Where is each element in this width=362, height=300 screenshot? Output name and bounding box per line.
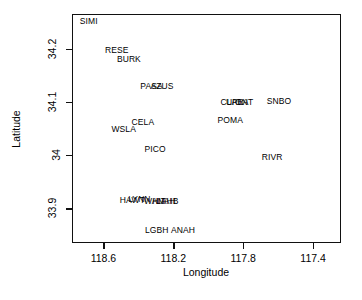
plot-frame: SIMIRESEBURKPASAAZUSCLARUPLAONTSNBOPOMAC…	[72, 14, 341, 243]
x-axis-tick-label: 118.2	[161, 252, 187, 264]
data-point-label: ONT	[235, 97, 253, 107]
data-point-label: POMA	[217, 115, 242, 125]
data-point-label: LGBH	[145, 225, 169, 235]
data-point-label: WSLA	[111, 124, 136, 134]
x-axis-tick	[313, 243, 314, 249]
y-axis-title: Latitude	[10, 110, 22, 147]
y-axis-tick-label: 34.1	[42, 96, 62, 108]
y-axis-tick	[66, 208, 72, 209]
data-point-label: RIVR	[262, 152, 283, 162]
data-point-label: LAHB	[156, 196, 179, 206]
data-point-label: PICO	[145, 144, 166, 154]
x-axis-tick-label: 117.8	[230, 252, 256, 264]
y-axis-tick	[66, 102, 72, 103]
y-axis-tick-label: 33.9	[42, 202, 62, 214]
x-axis-tick-label: 118.6	[91, 252, 117, 264]
y-axis-tick	[66, 49, 72, 50]
x-axis-tick	[173, 243, 174, 249]
data-point-label: SNBO	[267, 96, 292, 106]
y-axis-tick-label: 34	[50, 149, 62, 161]
x-axis-tick-label: 117.4	[300, 252, 326, 264]
x-axis-title: Longitude	[183, 266, 229, 278]
plot-area: SIMIRESEBURKPASAAZUSCLARUPLAONTSNBOPOMAC…	[73, 15, 340, 242]
y-axis-tick-label: 34.2	[42, 43, 62, 55]
y-axis-tick-label-text: 33.9	[46, 198, 58, 218]
y-axis-tick-label-text: 34.1	[46, 92, 58, 112]
data-point-label: BURK	[117, 54, 141, 64]
data-point-label: AZUS	[151, 81, 174, 91]
data-point-label: ANAH	[171, 225, 195, 235]
y-axis-tick	[66, 155, 72, 156]
scatter-plot-figure: SIMIRESEBURKPASAAZUSCLARUPLAONTSNBOPOMAC…	[0, 0, 362, 300]
y-axis-tick-label-text: 34.2	[46, 38, 58, 58]
x-axis-tick	[103, 243, 104, 249]
y-axis-tick-label-text: 34	[50, 149, 62, 161]
x-axis-tick	[243, 243, 244, 249]
data-point-label: SIMI	[80, 16, 98, 26]
